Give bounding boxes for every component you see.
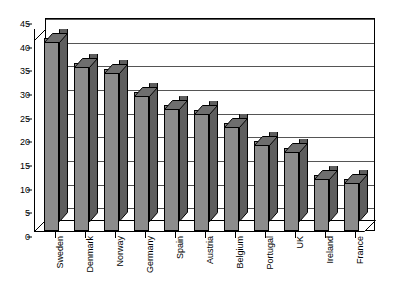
y-tick-mark-15 (27, 166, 32, 167)
bar-face (104, 69, 119, 231)
bar-denmark (74, 63, 89, 231)
bar-3d-top (44, 29, 68, 39)
bar-3d-top (314, 166, 338, 176)
bar-3d-side (149, 83, 157, 231)
bar-3d-side (119, 60, 127, 231)
y-tick-mark-5 (27, 213, 32, 214)
bar-spain (164, 105, 179, 231)
x-tick-label-norway: Norway (116, 236, 125, 267)
y-tick-mark-45 (27, 24, 32, 25)
bar-france (344, 179, 359, 231)
x-tick-label-germany: Germany (146, 236, 155, 273)
y-tick-mark-25 (27, 118, 32, 119)
bar-3d-side (239, 114, 247, 231)
bar-3d-top (254, 132, 278, 142)
bar-face (284, 148, 299, 231)
bar-face (44, 38, 59, 231)
bar-germany (134, 92, 149, 231)
x-tick-label-belgium: Belgium (236, 236, 245, 269)
bar-face (254, 141, 269, 231)
y-tick-mark-10 (27, 189, 32, 190)
bar-sweden (44, 38, 59, 231)
bar-face (164, 105, 179, 231)
bar-3d-side (89, 54, 97, 231)
bar-3d-top (134, 83, 158, 93)
y-tick-mark-0 (27, 237, 32, 238)
x-tick-label-sweden: Sweden (56, 236, 65, 269)
bar-3d-top (344, 170, 368, 180)
bar-3d-side (209, 101, 217, 231)
bar-3d-top (164, 96, 188, 106)
bar-face (344, 179, 359, 231)
x-tick-label-ireland: Ireland (326, 236, 335, 264)
x-tick-label-denmark: Denmark (86, 236, 95, 273)
bar-3d-top (194, 101, 218, 111)
bar-3d-top (284, 139, 308, 149)
bar-face (134, 92, 149, 231)
bar-face (314, 175, 329, 231)
bar-portugal (254, 141, 269, 231)
x-tick-label-portugal: Portugal (266, 236, 275, 270)
x-tick-label-spain: Spain (176, 236, 185, 259)
x-axis: SwedenDenmarkNorwayGermanySpainAustriaBe… (34, 232, 375, 298)
bar-3d-top (224, 114, 248, 124)
bar-austria (194, 110, 209, 231)
bar-face (74, 63, 89, 231)
bar-3d-side (59, 29, 67, 231)
bar-uk (284, 148, 299, 231)
bar-ireland (314, 175, 329, 231)
bar-3d-side (269, 132, 277, 231)
x-tick-label-france: France (356, 236, 365, 264)
bar-3d-top (74, 54, 98, 64)
x-tick-label-uk: UK (296, 236, 305, 249)
bar-3d-top (104, 60, 128, 70)
bar-norway (104, 69, 119, 231)
bar-3d-side (179, 96, 187, 231)
bar-face (224, 123, 239, 231)
x-tick-label-austria: Austria (206, 236, 215, 264)
bar-belgium (224, 123, 239, 231)
bar-face (194, 110, 209, 231)
y-tick-mark-35 (27, 71, 32, 72)
bar-chart: 051015202530354045 SwedenDenmarkNorwayGe… (0, 0, 395, 298)
y-tick-mark-20 (27, 142, 32, 143)
y-axis: 051015202530354045 (0, 0, 34, 298)
y-tick-mark-40 (27, 47, 32, 48)
y-tick-mark-30 (27, 95, 32, 96)
